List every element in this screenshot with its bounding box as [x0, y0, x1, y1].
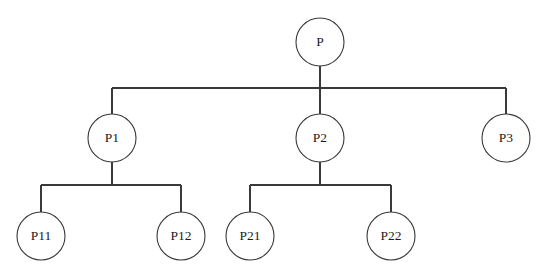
tree-node-p11[interactable]: P11 [17, 212, 65, 260]
node-label-p1: P1 [105, 130, 119, 145]
tree-node-p3[interactable]: P3 [482, 114, 530, 162]
tree-node-p21[interactable]: P21 [226, 212, 274, 260]
node-label-p2: P2 [313, 130, 327, 145]
node-label-p12: P12 [170, 228, 191, 243]
node-label-p3: P3 [499, 130, 514, 145]
tree-node-p[interactable]: P [296, 18, 344, 66]
node-label-p21: P21 [239, 228, 260, 243]
tree-node-p12[interactable]: P12 [157, 212, 205, 260]
node-label-p11: P11 [31, 228, 52, 243]
tree-node-p1[interactable]: P1 [88, 114, 136, 162]
node-layer: PP1P2P3P11P12P21P22 [17, 18, 530, 260]
node-label-p: P [316, 34, 324, 49]
tree-node-p22[interactable]: P22 [367, 212, 415, 260]
tree-diagram: PP1P2P3P11P12P21P22 [0, 0, 545, 273]
node-label-p22: P22 [380, 228, 401, 243]
tree-node-p2[interactable]: P2 [296, 114, 344, 162]
